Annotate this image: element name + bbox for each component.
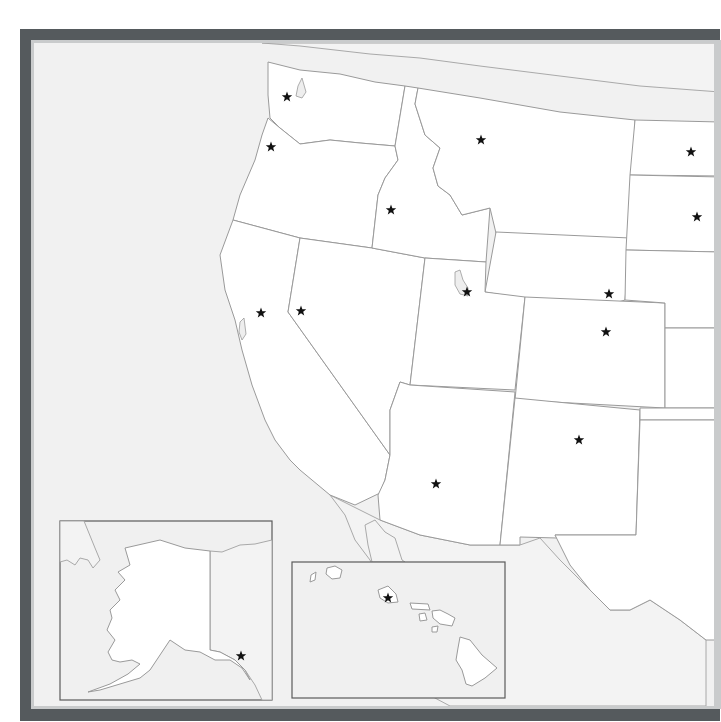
map-area bbox=[34, 43, 714, 706]
island-kahoolawe bbox=[432, 626, 438, 632]
us-west-map bbox=[34, 43, 714, 706]
state-new-mexico bbox=[500, 398, 640, 545]
state-south-dakota bbox=[626, 175, 714, 252]
state-north-dakota bbox=[630, 120, 714, 176]
alaska-inset bbox=[60, 521, 272, 700]
state-oklahoma bbox=[640, 408, 714, 420]
state-arizona bbox=[378, 382, 515, 545]
state-colorado bbox=[515, 297, 665, 408]
island-molokai bbox=[410, 603, 430, 610]
island-lanai bbox=[419, 613, 427, 621]
state-kansas bbox=[665, 328, 714, 408]
state-washington bbox=[268, 62, 405, 146]
hawaii-inset bbox=[292, 562, 505, 698]
